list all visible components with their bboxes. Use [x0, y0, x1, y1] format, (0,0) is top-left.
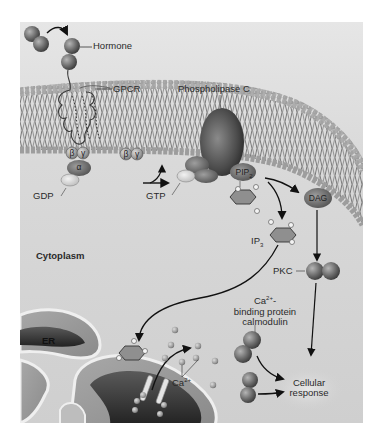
signaling-diagram: Hormone GPCR Phospholipase C β γ α β γ G…: [0, 0, 383, 445]
pip2-subscript: 2: [249, 173, 252, 179]
ip3-label: IP3: [251, 236, 263, 248]
pip2-text: PIP: [235, 167, 249, 177]
dag-label: DAG: [306, 193, 330, 203]
beta-free-label: β: [121, 149, 131, 159]
ca-hyphen: -: [273, 295, 276, 306]
gamma-subunit-label: γ: [78, 148, 88, 158]
alpha-subunit-label: α: [74, 162, 84, 172]
calmodulin-label: Ca2+- binding protein calmodulin: [225, 295, 305, 327]
gdp-label: GDP: [33, 191, 54, 201]
pkc-label: PKC: [273, 266, 293, 276]
gamma-free-label: γ: [132, 149, 142, 159]
phospholipase-c-label: Phospholipase C: [178, 84, 250, 94]
calcium-ion-label: Ca2+: [172, 377, 191, 389]
ca-prefix: Ca: [254, 295, 266, 306]
calmodulin-label-line1: Ca2+-: [225, 295, 305, 307]
ca-ion-charge: 2+: [184, 377, 191, 383]
ca-charge: 2+: [266, 295, 273, 301]
beta-subunit-label: β: [67, 148, 77, 158]
gtp-label: GTP: [146, 191, 166, 201]
hormone-label: Hormone: [93, 41, 132, 51]
ip3-subscript: 3: [260, 242, 263, 248]
gpcr-label: GPCR: [113, 84, 140, 94]
cellular-response-line2: response: [283, 388, 335, 398]
er-label: ER: [42, 336, 55, 346]
cytoplasm-label: Cytoplasm: [36, 251, 85, 261]
pip2-label: PIP2: [232, 167, 256, 179]
cellular-response-label: Cellular response: [283, 378, 335, 399]
calmodulin-label-line3: calmodulin: [225, 317, 305, 327]
ip3-text: IP: [251, 235, 260, 246]
ca-ion-text: Ca: [172, 377, 184, 388]
